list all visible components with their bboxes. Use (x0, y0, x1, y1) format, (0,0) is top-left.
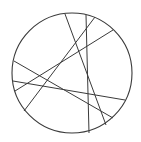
chord-line-2 (86, 15, 89, 133)
chord-line-3 (24, 17, 95, 111)
diagram-canvas (0, 0, 141, 142)
circle-outline (12, 13, 132, 133)
chord-line-1 (65, 14, 106, 125)
chord-line-4 (15, 30, 113, 91)
circle-chords-diagram (0, 0, 141, 142)
chord-line-6 (13, 81, 125, 100)
